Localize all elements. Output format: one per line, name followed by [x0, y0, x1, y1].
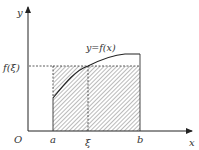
origin-label: O	[14, 134, 22, 145]
xi-label: ξ	[85, 137, 91, 148]
a-label: a	[50, 134, 56, 145]
y-axis-label: y	[16, 7, 23, 18]
mean-value-diagram: y x O f(ξ) y=f(x) a ξ b	[0, 0, 199, 150]
hatched-rectangle	[53, 66, 140, 131]
b-label: b	[137, 134, 143, 145]
f-xi-label: f(ξ)	[2, 62, 20, 73]
x-axis-label: x	[189, 137, 195, 148]
curve-label: y=f(x)	[85, 42, 116, 53]
